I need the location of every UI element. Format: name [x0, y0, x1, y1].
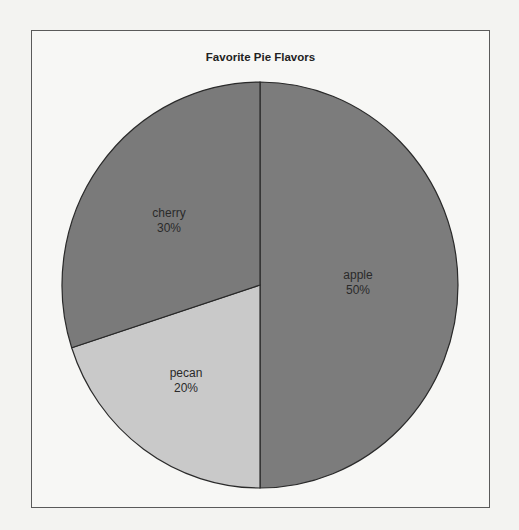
pie-chart: [0, 0, 519, 530]
slice-percent: 30%: [152, 221, 185, 236]
slice-name: apple: [343, 268, 372, 283]
slice-label-cherry: cherry30%: [152, 206, 185, 236]
slice-label-pecan: pecan20%: [170, 366, 203, 396]
slice-label-apple: apple50%: [343, 268, 372, 298]
slice-name: cherry: [152, 206, 185, 221]
slice-percent: 20%: [170, 381, 203, 396]
slice-name: pecan: [170, 366, 203, 381]
slice-percent: 50%: [343, 283, 372, 298]
